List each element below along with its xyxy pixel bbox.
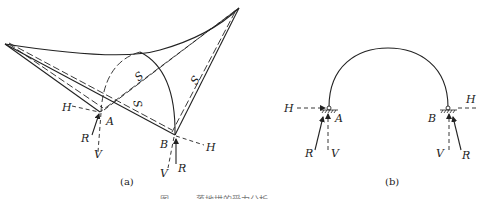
label-R-A: R (80, 132, 89, 145)
force-R-right-arrow (453, 117, 461, 150)
force-H-right-dashed (176, 136, 204, 145)
force-R-left-arrow (92, 114, 99, 135)
diagram-canvas: S S S H A R V B H V R (a) (0, 0, 484, 199)
force-V-right-dashed (168, 137, 174, 168)
hinge-A (327, 106, 331, 110)
figure-b: H A R V B H V R (b) (283, 48, 479, 187)
label-H-B: H (465, 93, 476, 106)
label-H-A: H (61, 101, 72, 114)
label-V-B: V (436, 147, 445, 160)
label-S-2: S (130, 99, 144, 109)
label-S-1: S (132, 69, 146, 84)
label-V-B: V (160, 167, 169, 180)
arch-visible (140, 52, 175, 135)
label-A: A (105, 115, 114, 128)
figure-a: S S S H A R V B H V R (a) (5, 8, 239, 187)
label-S-3: S (188, 73, 203, 87)
label-R-B: R (461, 149, 470, 162)
force-R-left-arrow (315, 117, 323, 150)
top-edge-cable (5, 8, 239, 55)
label-B: B (427, 112, 436, 125)
label-B: B (159, 138, 168, 151)
arch (329, 48, 448, 107)
cable-right-to-A-dashed-2 (104, 10, 236, 110)
figure-caption: 图 — — 落地拱的受力分析 (160, 194, 268, 199)
label-R-B: R (177, 162, 186, 175)
cable-right-to-B-dashed (172, 12, 235, 132)
label-R-A: R (304, 147, 313, 160)
label-V-A: V (331, 147, 340, 160)
cable-right-to-B (175, 8, 239, 135)
hinge-B (446, 106, 450, 110)
figure-b-caption: (b) (385, 176, 399, 187)
label-H-B: H (205, 141, 216, 154)
force-V-left-dashed (98, 113, 101, 152)
figure-a-caption: (a) (120, 176, 134, 187)
label-H-A: H (283, 102, 294, 115)
label-V-A: V (94, 148, 103, 161)
ground-support-B (440, 110, 457, 113)
label-A: A (334, 112, 343, 125)
